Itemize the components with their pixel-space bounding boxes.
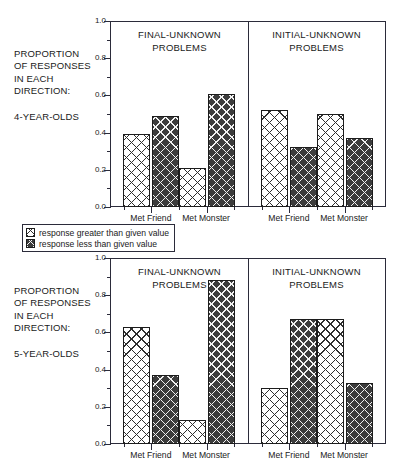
bar [123, 327, 150, 444]
bar [152, 375, 179, 444]
bar [261, 388, 288, 444]
axis-caption-line-2: OF RESPONSES [14, 297, 91, 308]
bar [290, 147, 317, 207]
axis-caption-line-1: PROPORTION [14, 285, 79, 296]
axis-caption-line-3: IN EACH [14, 310, 54, 321]
bar [261, 110, 288, 207]
bar [152, 116, 179, 207]
x-axis-category-label: Met Friend [268, 213, 309, 224]
x-tick-mark-minor [124, 207, 125, 210]
bar-group-bottom [110, 258, 386, 444]
x-tick-mark-minor [317, 207, 318, 210]
bar [208, 94, 235, 207]
x-axis-category-label: Met Monster [182, 213, 230, 224]
bar [317, 114, 344, 207]
bar [346, 383, 373, 444]
bar [346, 138, 373, 207]
x-axis-category-label: Met Monster [182, 450, 230, 461]
x-tick-mark-minor [179, 207, 180, 210]
x-tick-mark-minor [317, 444, 318, 447]
bar [123, 134, 150, 207]
x-axis-category-label: Met Friend [130, 213, 171, 224]
x-axis-category-label: Met Friend [268, 450, 309, 461]
x-axis-category-label: Met Monster [320, 450, 368, 461]
bar [179, 168, 206, 207]
axis-caption-line-4: DIRECTION: [14, 322, 70, 333]
bar [317, 319, 344, 444]
legend-item-greater: response greater than given value [26, 227, 169, 238]
bar [208, 280, 235, 444]
x-tick-mark-minor [372, 444, 373, 447]
x-axis-category-label: Met Monster [320, 213, 368, 224]
x-axis-category-label: Met Friend [130, 450, 171, 461]
x-tick-mark-minor [262, 207, 263, 210]
axis-caption-line-1: PROPORTION [14, 48, 79, 59]
x-tick-mark-minor [234, 444, 235, 447]
light-crosshatch-swatch-icon [26, 228, 35, 237]
axis-caption-line-2: OF RESPONSES [14, 60, 91, 71]
x-tick-mark-minor [124, 444, 125, 447]
x-tick-mark-minor [262, 444, 263, 447]
bar-group-top [110, 21, 386, 207]
bar [290, 319, 317, 444]
bar [179, 420, 206, 444]
x-tick-mark-minor [372, 207, 373, 210]
x-tick-mark-minor [179, 444, 180, 447]
x-tick-mark-minor [234, 207, 235, 210]
x-axis-category-labels-bottom: Met FriendMet MonsterMet FriendMet Monst… [110, 450, 386, 464]
chart-panel-4-year-olds: PROPORTION OF RESPONSES IN EACH DIRECTIO… [0, 6, 397, 226]
axis-caption-line-4: DIRECTION: [14, 85, 70, 96]
chart-panel-5-year-olds: PROPORTION OF RESPONSES IN EACH DIRECTIO… [0, 243, 397, 463]
legend-label-greater: response greater than given value [39, 228, 169, 238]
axis-caption-line-3: IN EACH [14, 73, 54, 84]
